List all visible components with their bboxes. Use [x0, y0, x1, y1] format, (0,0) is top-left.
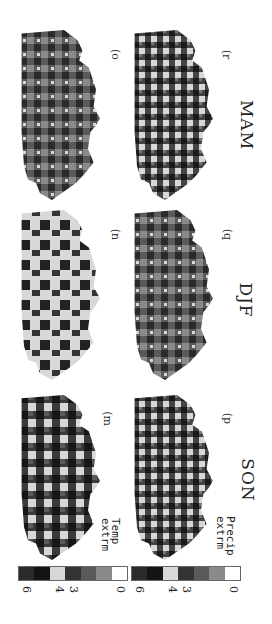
colorbar-segment-2: [81, 567, 96, 580]
map-panel-o: [20, 30, 100, 200]
tick-6: 6: [133, 586, 146, 593]
colorbar-segment-1: [96, 567, 111, 580]
tick-0: 0: [227, 586, 240, 593]
colorbar-segment-5: [34, 567, 49, 580]
panel-label-m: (m: [101, 411, 114, 426]
colorbar-segment-6: [132, 567, 147, 580]
tick-0: 0: [114, 586, 127, 593]
colorbar-segment-2: [194, 567, 209, 580]
colorbar-segment-1: [209, 567, 224, 580]
tick-3: 3: [180, 586, 193, 593]
panel-label-o: (o: [109, 49, 122, 60]
row-label-temp: Temp extrm: [100, 518, 120, 558]
season-label-djf: DJF: [236, 282, 256, 317]
panel-label-q: (q: [221, 229, 234, 240]
season-label-mam: MAM: [237, 100, 257, 150]
colorbar-segment-0: [112, 567, 127, 580]
panel-label-r: (r: [220, 50, 233, 60]
tick-4: 4: [166, 586, 179, 593]
row-label-precip: Precip extrm: [215, 516, 235, 560]
tick-6: 6: [20, 586, 33, 593]
colorbar-segment-4: [163, 567, 178, 580]
map-panel-n: [20, 210, 100, 380]
season-label-son: SON: [238, 458, 258, 501]
colorbar-segment-5: [147, 567, 162, 580]
map-panel-r: [133, 30, 213, 200]
tick-3: 3: [67, 586, 80, 593]
panel-label-p: (p: [221, 413, 234, 424]
colorbar-precip: [131, 566, 241, 581]
map-panel-m: [20, 395, 100, 560]
colorbar-segment-4: [50, 567, 65, 580]
colorbar-temp: [18, 566, 128, 581]
colorbar-segment-6: [19, 567, 34, 580]
colorbar-segment-3: [65, 567, 80, 580]
map-panel-p: [133, 395, 213, 560]
panel-label-n: (n: [109, 229, 122, 240]
map-panel-q: [133, 210, 213, 380]
colorbar-segment-3: [178, 567, 193, 580]
tick-4: 4: [53, 586, 66, 593]
colorbar-segment-0: [225, 567, 240, 580]
